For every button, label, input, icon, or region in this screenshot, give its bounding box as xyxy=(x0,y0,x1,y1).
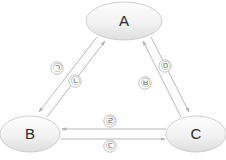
diagram-canvas: ABC ㉠㉡㉤㉥㉣㉢ xyxy=(0,0,226,160)
edge-b-to-a-label: ㉡ xyxy=(69,75,81,87)
node-b-label: B xyxy=(25,125,35,142)
diagram-svg: ABC ㉠㉡㉤㉥㉣㉢ xyxy=(0,0,226,160)
edge-c-to-b-label: ㉣ xyxy=(104,115,116,127)
edge-a-to-b-label-text: ㉠ xyxy=(53,63,62,73)
edge-a-to-b xyxy=(39,37,97,112)
edge-c-to-b-label-text: ㉣ xyxy=(106,116,115,126)
edge-c-to-a-label-text: ㉥ xyxy=(141,78,150,88)
node-a-label: A xyxy=(119,12,129,29)
edge-c-to-a-label: ㉥ xyxy=(139,77,151,89)
edge-b-to-a-label-text: ㉡ xyxy=(71,76,80,86)
node-c[interactable]: C xyxy=(166,116,226,152)
edge-a-to-c-label-text: ㉤ xyxy=(161,61,170,71)
edge-b-to-c-label: ㉢ xyxy=(104,140,116,152)
edge-b-to-c-label-text: ㉢ xyxy=(106,141,115,151)
edge-a-to-c xyxy=(151,37,189,112)
node-b[interactable]: B xyxy=(0,116,60,152)
edge-a-to-b-label: ㉠ xyxy=(51,62,63,74)
edge-a-to-c-label: ㉤ xyxy=(159,60,171,72)
node-a[interactable]: A xyxy=(86,2,162,40)
node-c-label: C xyxy=(191,125,202,142)
